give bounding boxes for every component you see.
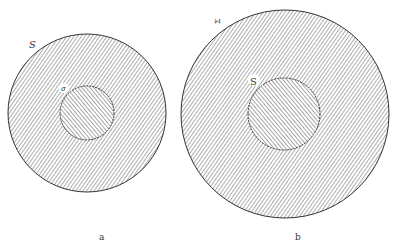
panel-a: S σ a (8, 34, 166, 242)
inner-label-b: S (250, 76, 257, 87)
inner-circle-b-hatch (248, 78, 320, 150)
outer-label-a: S (29, 39, 36, 50)
outer-label-b: Σ (213, 18, 222, 24)
inner-label-a: σ (61, 85, 66, 93)
caption-a: a (99, 232, 105, 242)
inner-circle-a-hatch (60, 86, 114, 140)
panel-b: Σ S b (181, 10, 389, 242)
nested-circles-diagram: S σ a Σ S b (0, 0, 397, 247)
caption-b: b (295, 232, 301, 242)
